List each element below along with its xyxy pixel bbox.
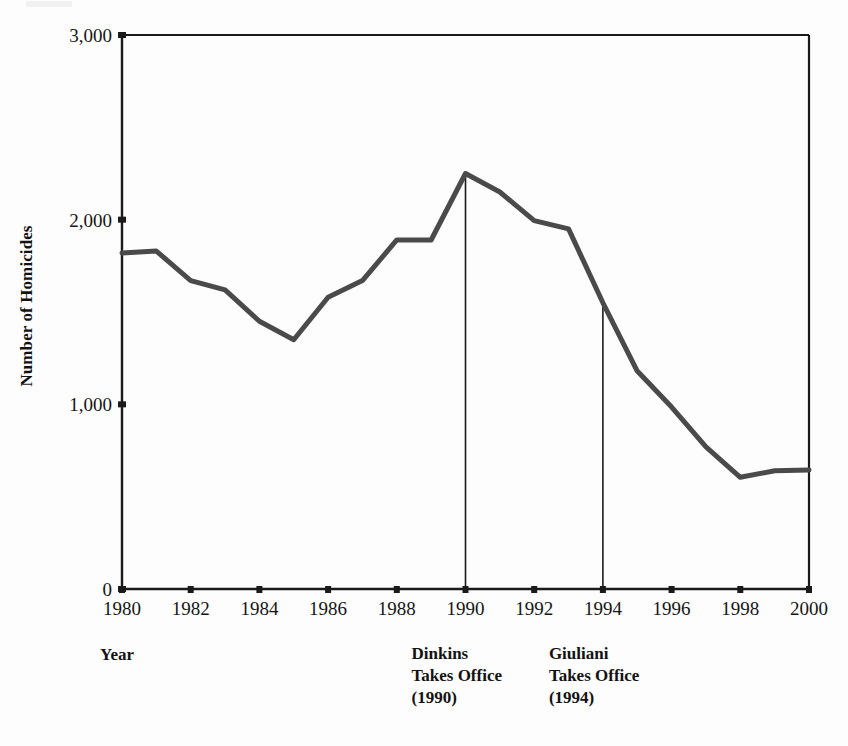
x-axis-tick [256,586,262,593]
plot-area [0,0,848,746]
x-axis-tick [806,586,812,593]
x-axis-tick [531,586,537,593]
x-axis-tick [325,586,331,593]
x-axis-tick [188,586,194,593]
y-axis-tick [118,32,126,38]
y-axis-tick [118,217,126,223]
x-axis-tick [119,586,125,593]
x-axis-tick [394,586,400,593]
homicides-line-chart: Number of Homicides 3,0002,0001,0000 198… [0,0,848,746]
x-axis-tick [737,586,743,593]
x-axis-tick [669,586,675,593]
y-axis-tick [118,401,126,407]
